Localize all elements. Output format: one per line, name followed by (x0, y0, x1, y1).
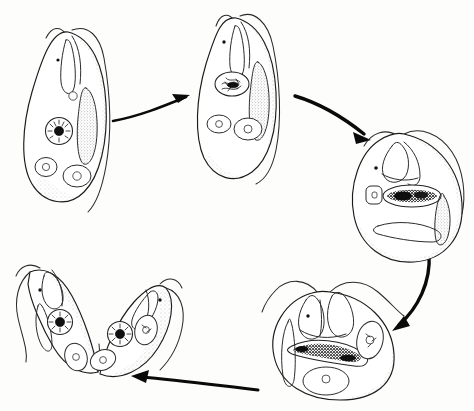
arrow-stage2-to-stage3 (295, 96, 371, 144)
stage-5-daughter-pair (16, 262, 183, 388)
stage-3-cell (348, 130, 470, 274)
stage-4-cell (262, 281, 404, 411)
arrow-stage3-to-stage4 (392, 254, 429, 331)
stage-2-cell (197, 14, 280, 190)
cycle-illustration-canvas (0, 0, 474, 411)
arrow-stage4-to-stage5 (131, 370, 258, 390)
arrow-stage1-to-stage2 (113, 94, 190, 121)
cell-cycle-diagram (0, 0, 474, 411)
stage-1-cell (24, 28, 110, 212)
